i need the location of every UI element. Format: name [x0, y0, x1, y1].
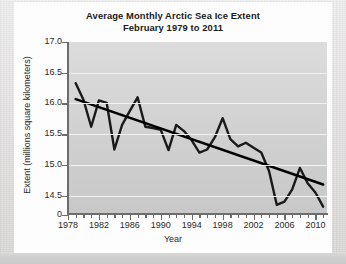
x-tick-1997 — [215, 214, 216, 218]
x-tick-2005 — [277, 214, 278, 218]
chart-title-line1: Average Monthly Arctic Sea Ice Extent — [86, 10, 260, 21]
y-tick-label-15-5: 15.5 — [30, 128, 62, 138]
y-tick-label-16-0: 16.0 — [30, 97, 62, 107]
x-tick-2000 — [238, 214, 239, 218]
x-tick-1999 — [230, 214, 231, 218]
y-tick-16-0 — [62, 103, 68, 104]
x-tick-1993 — [184, 214, 185, 218]
y-tick-16-5 — [62, 73, 68, 74]
x-tick-1996 — [207, 214, 208, 218]
y-tick-17-0 — [62, 42, 68, 43]
y-axis — [67, 42, 69, 214]
x-tick-1988 — [145, 214, 146, 218]
gridline-14-5 — [68, 196, 327, 197]
plot-area — [68, 42, 327, 214]
chart-svg — [68, 42, 327, 214]
x-tick-1985 — [122, 214, 123, 218]
x-tick-label-2010: 2010 — [295, 220, 335, 230]
bottom-bar — [0, 253, 346, 264]
x-tick-2003 — [261, 214, 262, 218]
x-tick-2008 — [300, 214, 301, 218]
x-tick-1992 — [176, 214, 177, 218]
x-axis-title: Year — [14, 234, 332, 244]
y-axis-title: Extent (millions square kilometers) — [22, 30, 32, 220]
y-tick-label-14-5: 14.5 — [30, 190, 62, 200]
gridline-16-5 — [68, 73, 327, 74]
data-line-series — [76, 83, 323, 206]
y-tick-15-0 — [62, 165, 68, 166]
x-tick-2011 — [323, 214, 324, 218]
x-tick-2007 — [292, 214, 293, 218]
x-tick-1995 — [199, 214, 200, 218]
y-tick-label-0: 0 — [30, 209, 62, 219]
gridline-15-5 — [68, 134, 327, 135]
chart-title-line2: February 1979 to 2011 — [123, 22, 223, 33]
y-tick-14-5 — [62, 196, 68, 197]
x-tick-2009 — [308, 214, 309, 218]
x-tick-1983 — [107, 214, 108, 218]
y-tick-label-16-5: 16.5 — [30, 67, 62, 77]
x-tick-2004 — [269, 214, 270, 218]
x-tick-1989 — [153, 214, 154, 218]
x-tick-1981 — [91, 214, 92, 218]
gridline-15-0 — [68, 165, 327, 166]
y-tick-15-5 — [62, 134, 68, 135]
chart-card: Average Monthly Arctic Sea Ice Extent Fe… — [14, 2, 332, 253]
y-tick-label-17-0: 17.0 — [30, 36, 62, 46]
x-tick-1987 — [138, 214, 139, 218]
x-tick-1979 — [76, 214, 77, 218]
x-tick-1984 — [114, 214, 115, 218]
x-tick-1991 — [169, 214, 170, 218]
gridline-16-0 — [68, 103, 327, 104]
y-tick-label-15-0: 15.0 — [30, 159, 62, 169]
x-tick-2001 — [246, 214, 247, 218]
x-tick-1980 — [83, 214, 84, 218]
